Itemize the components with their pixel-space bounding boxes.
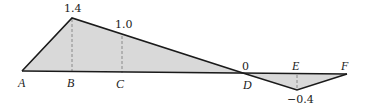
point-label-c: C bbox=[116, 77, 125, 91]
value-label-e: −0.4 bbox=[287, 93, 314, 106]
positive-region bbox=[22, 18, 246, 74]
negative-region bbox=[246, 74, 347, 90]
value-label-d: 0 bbox=[242, 60, 249, 73]
value-label-c: 1.0 bbox=[115, 18, 133, 31]
point-label-e: E bbox=[291, 59, 300, 73]
point-label-d: D bbox=[242, 78, 252, 92]
point-label-f: F bbox=[340, 59, 349, 73]
influence-line-diagram: 1.4 1.0 0 −0.4 A B C D E F bbox=[0, 0, 371, 108]
point-label-b: B bbox=[67, 76, 75, 90]
point-label-a: A bbox=[17, 76, 26, 90]
value-label-b: 1.4 bbox=[64, 2, 82, 15]
